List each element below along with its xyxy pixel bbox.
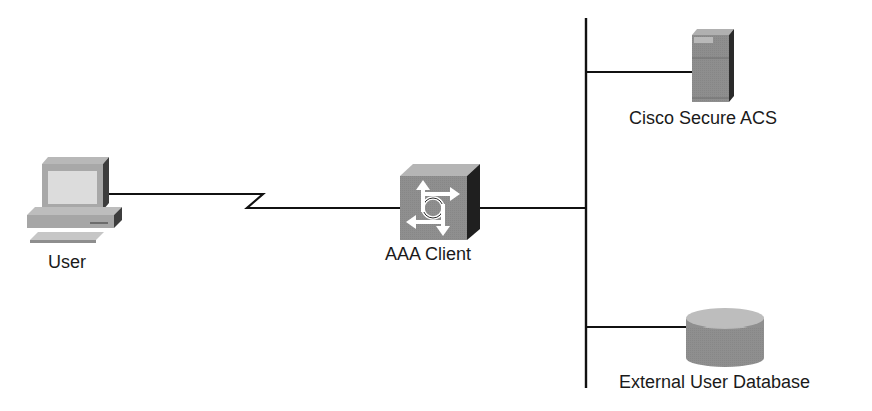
network-diagram: User AAA Client Cisco Secure ACS Externa… (0, 0, 872, 411)
aaa-client-label: AAA Client (385, 244, 471, 265)
serial-link (104, 194, 400, 208)
database-icon[interactable] (686, 308, 764, 367)
server-icon[interactable] (692, 29, 734, 102)
router-icon[interactable] (400, 164, 480, 240)
workstation-icon[interactable] (27, 157, 122, 243)
diagram-canvas (0, 0, 872, 411)
acs-label: Cisco Secure ACS (629, 108, 777, 129)
external-db-label: External User Database (619, 372, 810, 393)
user-label: User (48, 252, 86, 273)
